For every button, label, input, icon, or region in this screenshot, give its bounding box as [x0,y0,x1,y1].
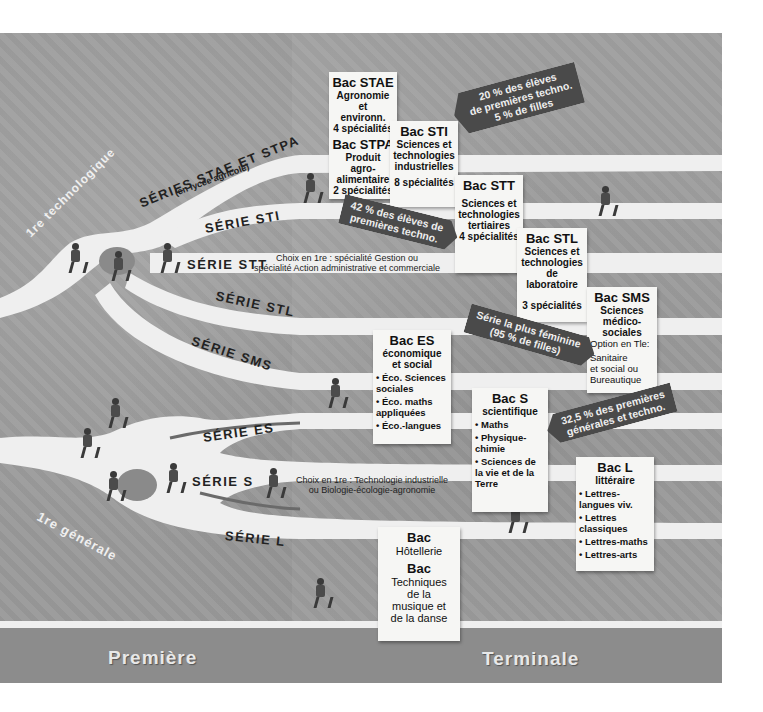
student-figure [110,398,120,428]
orientation-diagram: 1re technologique 1re générale SÉRIES ST… [0,33,722,683]
bac-musique-sub4: de la danse [381,612,457,624]
bac-musique-sub1: Techniques [381,576,457,588]
bac-musique-sub3: musique et [381,600,457,612]
bac-stae-sub1: Agronomie et [332,90,394,112]
bac-es-title: Bac ES [376,333,448,348]
bac-stpa-sub1: Produit agro- [332,152,394,174]
bac-l-title: Bac L [579,460,651,475]
bac-l-option: • Lettres-maths [579,536,651,547]
bac-card-hotellerie-musique: Bac Hôtellerie Bac Techniques de la musi… [378,527,460,641]
bac-stpa-count: 2 spécialités [332,185,394,196]
series-note-s: Choix en 1re : Technologie industrielle … [296,475,448,495]
stt-note-line1: Choix en 1re : spécialité Gestion ou [254,253,440,263]
bac-card-stl: Bac STL Sciences et technologies de labo… [517,228,587,322]
bac-l-option: • Lettres classiques [579,512,651,534]
bac-s-title: Bac S [475,391,545,406]
bac-card-sms: Bac SMS Sciences médico- sociales Option… [587,287,657,393]
bac-card-s: Bac S scientifique • Maths • Physique-ch… [472,388,548,512]
bac-sti-count: 8 spécialités [393,177,455,188]
bac-stpa-title: Bac STPA [332,137,394,152]
bac-stl-count: 3 spécialités [520,300,584,311]
student-figure [70,243,80,273]
bac-hotellerie-sub1: Hôtellerie [381,545,457,557]
student-figure [315,578,325,608]
bac-musique-title: Bac [381,561,457,576]
bac-s-option: • Physique-chimie [475,432,545,454]
bac-sms-sub1: Sciences [590,305,654,316]
student-figure [600,186,610,216]
bac-sms-option: Option en Tle: [590,338,654,349]
bac-stt-sub2: technologies [458,209,520,220]
stage-label-premiere: Première [108,647,197,669]
bac-sms-opt1: Sanitaire [590,352,654,363]
bac-stt-sub1: Sciences et [458,198,520,209]
bac-l-sub1: littéraire [579,475,651,486]
student-figure [162,243,172,273]
bac-card-stt: Bac STT Sciences et technologies tertiai… [455,175,523,273]
bac-stt-title: Bac STT [458,178,520,193]
bac-stpa-sub2: alimentaire [332,174,394,185]
bac-sti-sub1: Sciences et [393,139,455,150]
bac-l-option: • Lettres-arts [579,549,651,560]
bac-card-l: Bac L littéraire • Lettres-langues viv. … [576,457,654,571]
student-figure [113,251,123,281]
bac-stae-count: 4 spécialités [332,123,394,134]
bac-es-sub2: et social [376,359,448,370]
bac-card-sti: Bac STI Sciences et technologies industr… [390,121,458,207]
bac-sms-opt3: Bureautique [590,374,654,385]
bac-l-option: • Lettres-langues viv. [579,488,651,510]
student-figure [305,173,315,203]
bac-card-stae-stpa: Bac STAE Agronomie et environn. 4 spécia… [329,72,397,199]
bac-es-option: • Éco. Sciences sociales [376,372,448,394]
bac-sms-opt2: et social ou [590,363,654,374]
student-figure [268,468,278,498]
bac-stae-title: Bac STAE [332,75,394,90]
bac-sms-title: Bac SMS [590,290,654,305]
student-figure [330,378,340,408]
bac-stl-sub2: technologies [520,257,584,268]
bac-sti-sub3: industrielles [393,161,455,172]
bac-stt-sub3: tertiaires [458,220,520,231]
student-figure [108,471,118,501]
student-figure [168,463,178,493]
student-figure [82,428,92,458]
bac-stae-sub2: environn. [332,112,394,123]
bac-es-option: • Éco. maths appliquées [376,396,448,418]
bac-es-sub1: économique [376,348,448,359]
bac-stt-count: 4 spécialités [458,231,520,242]
bac-hotellerie-title: Bac [381,530,457,545]
series-note-stt: Choix en 1re : spécialité Gestion ou spé… [254,253,440,273]
bac-s-sub1: scientifique [475,406,545,417]
series-label-s: SÉRIE S [192,474,254,489]
bac-sms-sub2: médico- [590,316,654,327]
bac-sti-title: Bac STI [393,124,455,139]
bac-stl-sub3: de laboratoire [520,268,584,290]
bac-musique-sub2: de la [381,588,457,600]
bac-s-option: • Maths [475,419,545,430]
bac-s-option: • Sciences de la vie et de la Terre [475,456,545,489]
stage-label-terminale: Terminale [482,648,579,670]
bac-es-option: • Éco.-langues [376,420,448,431]
s-note-line1: Choix en 1re : Technologie industrielle [296,475,448,485]
bac-stl-sub1: Sciences et [520,246,584,257]
s-note-line2: ou Biologie-écologie-agronomie [296,485,448,495]
stt-note-line2: spécialité Action administrative et comm… [254,263,440,273]
bac-card-es: Bac ES économique et social • Éco. Scien… [373,330,451,444]
bac-sti-sub2: technologies [393,150,455,161]
bac-stl-title: Bac STL [520,231,584,246]
bac-sms-sub3: sociales [590,327,654,338]
